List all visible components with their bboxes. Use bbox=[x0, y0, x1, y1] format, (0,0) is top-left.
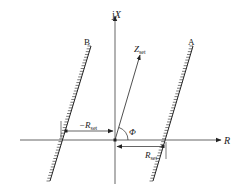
phi-arc bbox=[119, 128, 128, 141]
origin-marker bbox=[114, 139, 117, 142]
neg-rset-label: −Rset bbox=[79, 120, 98, 131]
point-b-marker bbox=[65, 130, 68, 133]
zset-label: Zset bbox=[134, 44, 146, 55]
line-label-a: A bbox=[188, 37, 195, 47]
impedance-plane-diagram: jX R B A Zset Φ −Rset Rset bbox=[0, 0, 240, 192]
phi-label: Φ bbox=[129, 127, 136, 137]
point-a-marker bbox=[162, 145, 165, 148]
zset-vector bbox=[115, 55, 140, 140]
rset-label: Rset bbox=[144, 150, 157, 161]
line-b bbox=[47, 46, 92, 181]
axis-label-jx: jX bbox=[111, 9, 122, 20]
diagram-canvas: jX R B A Zset Φ −Rset Rset bbox=[0, 0, 240, 192]
line-label-b: B bbox=[84, 37, 90, 47]
axis-label-r: R bbox=[223, 135, 230, 146]
